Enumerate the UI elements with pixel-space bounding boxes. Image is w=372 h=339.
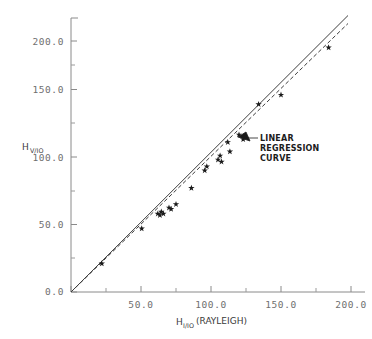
y-tick-label-150: 150.0	[32, 84, 64, 95]
y-axis-title-main: H	[22, 142, 29, 152]
regression-lines	[71, 16, 348, 293]
y-axis	[71, 18, 78, 292]
linear-regression-line-solid	[71, 16, 348, 293]
y-tick-labels: 0.0 50.0 100.0 150.0 200.0	[32, 36, 64, 298]
x-axis	[71, 286, 365, 292]
data-point	[278, 92, 284, 98]
x-tick-label-100: 100.0	[195, 299, 227, 310]
data-point	[188, 185, 194, 191]
x-axis-title-tail: (RAYLEIGH)	[196, 316, 247, 326]
x-tick-label-150: 150.0	[265, 299, 297, 310]
x-tick-labels: 50.0 100.0 150.0 200.0	[128, 299, 366, 310]
y-tick-label-200: 200.0	[32, 36, 64, 47]
x-axis-title-main: H	[176, 317, 183, 327]
data-points	[99, 44, 332, 266]
annotation-line-1: LINEAR	[260, 134, 294, 143]
x-tick-label-200: 200.0	[335, 299, 367, 310]
scatter-plot: 0.0 50.0 100.0 150.0 200.0 50.0 100.0 15…	[0, 0, 372, 339]
y-tick-label-50: 50.0	[39, 219, 64, 230]
data-point	[325, 44, 331, 50]
x-axis-title-sub: I/IO	[183, 322, 194, 330]
x-axis-title: H I/IO (RAYLEIGH)	[176, 316, 247, 330]
data-point	[202, 167, 208, 173]
annotation-line-3: CURVE	[260, 154, 291, 163]
data-point	[173, 201, 179, 207]
x-tick-label-50: 50.0	[128, 299, 153, 310]
y-axis-title-sub: V/IO	[30, 147, 43, 155]
data-point	[227, 148, 233, 154]
y-tick-label-0: 0.0	[45, 286, 64, 297]
y-axis-title: H V/IO	[22, 142, 43, 155]
reference-line-dashed	[71, 24, 348, 293]
linear-regression-annotation: LINEAR REGRESSION CURVE	[238, 132, 319, 163]
annotation-line-2: REGRESSION	[260, 144, 319, 153]
figure-container: 0.0 50.0 100.0 150.0 200.0 50.0 100.0 15…	[0, 0, 372, 339]
